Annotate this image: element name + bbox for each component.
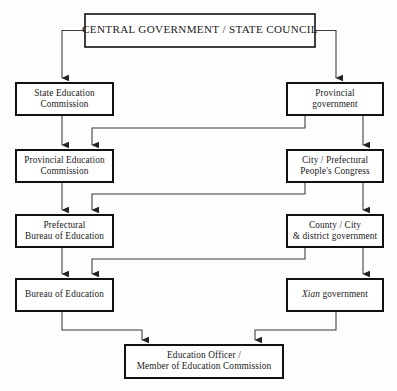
node-provincial-education-commission[interactable]: Provincial EducationCommission [16,150,113,182]
connector-provincial-government-to-provincial-education [92,115,305,145]
connector-central-to-state-education [62,31,85,79]
node-label-provincial-government: Provincial [315,88,355,98]
node-xian-government[interactable]: Xian government [287,279,383,311]
node-label-city-prefectural-peoples-congress: People's Congress [300,166,370,176]
node-city-prefectural-peoples-congress[interactable]: City / PrefecturalPeople's Congress [287,150,383,182]
connector-central-to-provincial-government [315,31,336,79]
node-label-county-city-district-government: & district government [293,231,378,241]
node-label-county-city-district-government: County / City [309,220,361,230]
node-label-prefectural-bureau-of-education: Bureau of Education [25,231,104,241]
node-prefectural-bureau-of-education[interactable]: PrefecturalBureau of Education [16,215,113,247]
node-label-prefectural-bureau-of-education: Prefectural [43,220,85,230]
node-central-government[interactable]: CENTRAL GOVERNMENT / STATE COUNCIL [82,14,318,47]
node-label-bureau-of-education: Bureau of Education [25,289,104,299]
connector-bureau-to-education-officer [62,311,142,340]
node-label-xian-government: Xian government [301,289,368,299]
node-state-education-commission[interactable]: State EducationCommission [16,83,113,115]
node-label-state-education-commission: Commission [40,99,88,109]
node-label-provincial-government: government [312,99,358,109]
node-label-state-education-commission: State Education [34,88,95,98]
connector-county-district-to-bureau [92,247,305,274]
node-label-education-officer: Member of Education Commission [137,361,272,371]
node-label-provincial-education-commission: Commission [40,166,88,176]
org-chart-diagram: CENTRAL GOVERNMENT / STATE COUNCILState … [0,0,397,391]
node-label-provincial-education-commission: Provincial Education [24,155,105,165]
node-bureau-of-education[interactable]: Bureau of Education [16,279,113,311]
node-layer: CENTRAL GOVERNMENT / STATE COUNCILState … [16,14,383,378]
node-county-city-district-government[interactable]: County / City& district government [287,215,383,247]
connector-city-congress-to-prefectural-bureau [92,182,305,210]
node-label-education-officer: Education Officer / [167,350,241,360]
node-provincial-government[interactable]: Provincialgovernment [287,83,383,115]
node-label-central-government: CENTRAL GOVERNMENT / STATE COUNCIL [82,23,318,35]
connector-xian-to-education-officer [255,311,336,340]
node-education-officer[interactable]: Education Officer /Member of Education C… [125,345,283,378]
node-label-city-prefectural-peoples-congress: City / Prefectural [302,155,368,165]
flowchart-canvas: CENTRAL GOVERNMENT / STATE COUNCILState … [0,0,397,391]
